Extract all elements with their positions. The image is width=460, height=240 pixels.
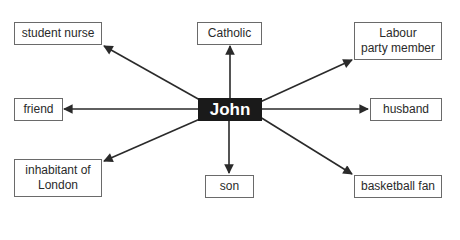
node-label: student nurse (22, 26, 95, 41)
node-label: basketball fan (361, 179, 435, 194)
node-student-nurse: student nurse (14, 22, 102, 45)
arrow-to-labour-party-member (260, 60, 352, 102)
node-label: Catholic (208, 26, 251, 41)
node-label-line-2: London (38, 178, 78, 193)
node-label: friend (23, 102, 53, 117)
node-basketball-fan: basketball fan (354, 175, 442, 198)
node-friend: friend (14, 98, 63, 121)
node-catholic: Catholic (197, 22, 262, 45)
arrow-to-student-nurse (104, 46, 200, 100)
node-label-line-2: party member (361, 41, 435, 56)
node-label-line-1: Labour (379, 26, 416, 41)
node-son: son (205, 175, 254, 198)
arrow-to-inhabitant-of-london (104, 119, 200, 161)
node-husband: husband (370, 98, 442, 121)
node-label-line-1: inhabitant of (25, 163, 90, 178)
node-label: husband (383, 102, 429, 117)
node-label: son (220, 179, 239, 194)
node-labour-party-member: Labour party member (354, 22, 442, 60)
node-inhabitant-of-london: inhabitant of London (14, 159, 102, 197)
center-label: John (210, 100, 251, 120)
center-node-john: John (198, 98, 262, 121)
arrow-to-basketball-fan (260, 117, 352, 174)
